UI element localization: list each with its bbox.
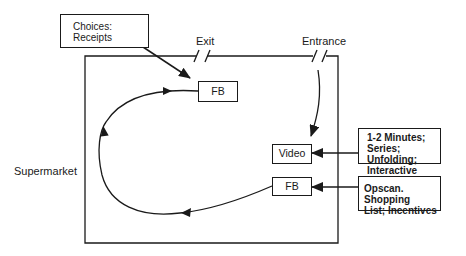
entrance-label: Entrance — [302, 35, 346, 47]
fb-top-node: FB — [198, 81, 238, 102]
video-node: Video — [272, 144, 312, 164]
fb-bottom-node: FB — [272, 177, 312, 196]
video-info-line-3: Interactive — [367, 165, 440, 176]
fb-info-line-2: List; Incentives — [364, 205, 440, 216]
fb-info-line-1: Opscan. Shopping — [364, 183, 440, 205]
supermarket-label: Supermarket — [14, 165, 77, 177]
video-info-note-box: 1-2 Minutes; Series; Unfolding; Interact… — [358, 128, 441, 164]
video-info-line-2: Series; Unfolding; — [367, 143, 440, 165]
choices-arrow — [143, 47, 190, 78]
fb-info-note-box: Opscan. Shopping List; Incentives — [358, 176, 441, 211]
path-arrowhead-bottom — [181, 208, 191, 217]
entrance-door-icon — [312, 50, 327, 62]
fb-bottom-label: FB — [285, 181, 298, 193]
choices-note-line-1: Choices: — [73, 21, 148, 32]
exit-label: Exit — [196, 35, 214, 47]
path-arrowhead-top — [163, 87, 172, 95]
video-info-line-1: 1-2 Minutes; — [367, 132, 440, 143]
choices-note-line-2: Receipts — [73, 32, 148, 43]
fb-top-label: FB — [211, 86, 224, 98]
entrance-to-video-arrow — [311, 70, 320, 136]
exit-door-icon — [194, 50, 210, 62]
video-label: Video — [279, 148, 306, 160]
shopping-path-loop — [99, 91, 272, 214]
choices-note-box: Choices: Receipts — [60, 14, 149, 48]
